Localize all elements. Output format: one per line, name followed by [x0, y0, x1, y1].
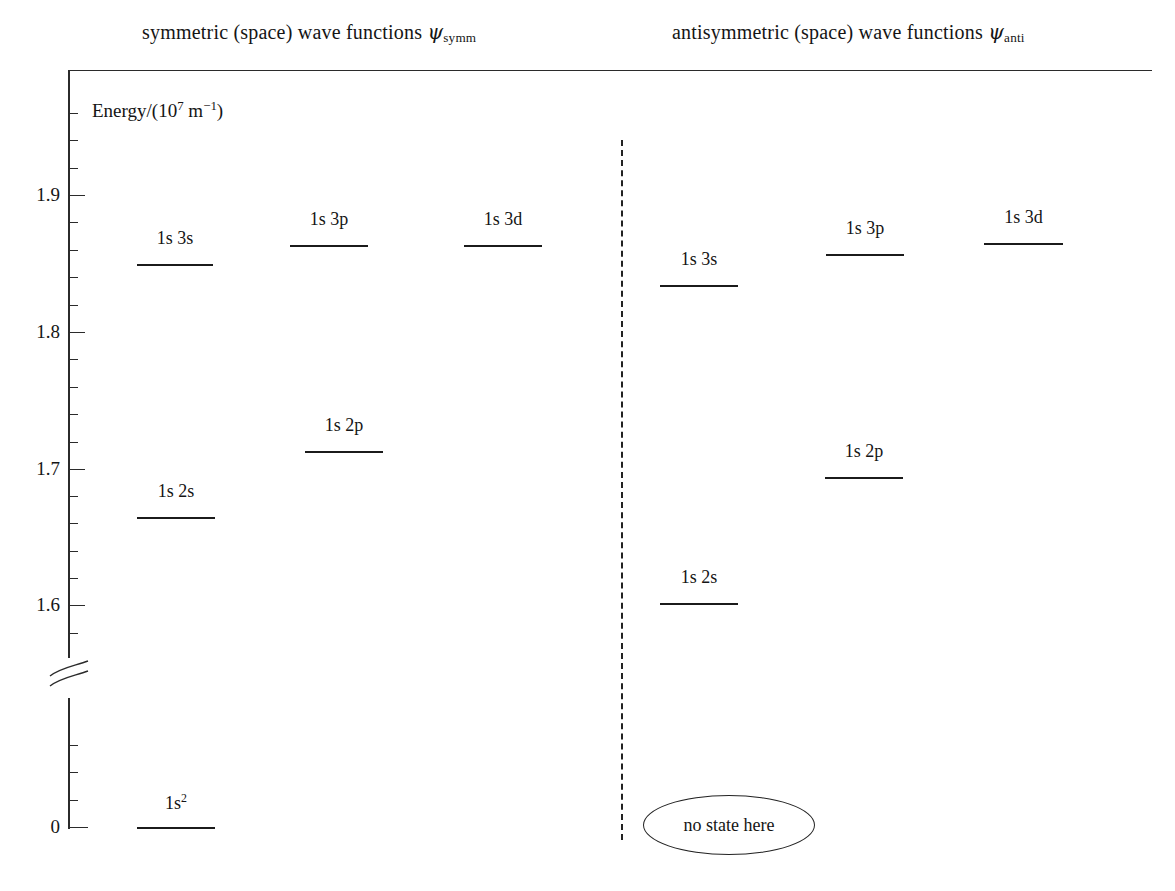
level-label-symm-1s2p: 1s 2p — [305, 415, 383, 436]
y-axis-label-tail: ) — [217, 100, 223, 121]
level-label-anti-1s3p: 1s 3p — [826, 218, 904, 239]
y-tick-major-0 — [69, 827, 85, 828]
level-line-symm-1s3s — [137, 264, 213, 266]
y-tick-minor — [69, 113, 78, 114]
y-axis-line — [68, 70, 70, 829]
y-tick-minor — [69, 140, 78, 141]
y-tick-minor — [69, 800, 78, 801]
y-tick-minor — [69, 496, 78, 497]
y-tick-major-1.9 — [69, 195, 85, 196]
level-label-symm-ground-sup: 2 — [181, 791, 187, 805]
y-tick-major-1.7 — [69, 469, 85, 470]
top-rule — [68, 70, 1152, 71]
level-line-symm-1s2s — [137, 517, 215, 519]
y-tick-major-1.8 — [69, 332, 85, 333]
level-line-symm-1s3p — [290, 245, 368, 247]
level-line-anti-1s3s — [660, 285, 738, 287]
axis-break-symbol — [48, 658, 96, 698]
y-axis-label-exponent-2: −1 — [203, 98, 217, 113]
y-tick-minor — [69, 442, 78, 443]
level-label-symm-1s3s: 1s 3s — [137, 228, 213, 249]
level-line-anti-1s2p — [825, 477, 903, 479]
y-tick-minor — [69, 222, 78, 223]
energy-level-diagram: symmetric (space) wave functions ψsymm a… — [0, 0, 1175, 891]
level-label-symm-1s3p: 1s 3p — [290, 209, 368, 230]
level-label-anti-1s3s: 1s 3s — [660, 249, 738, 270]
y-tick-minor — [69, 551, 78, 552]
level-label-symm-ground-base: 1s — [165, 793, 181, 813]
y-tick-minor — [69, 277, 78, 278]
y-tick-minor — [69, 745, 78, 746]
y-tick-label-0: 0 — [14, 816, 60, 838]
psi-symbol-symmetric: ψ — [427, 20, 443, 44]
y-tick-label-1.9: 1.9 — [14, 184, 60, 206]
level-line-anti-1s3p — [826, 254, 904, 256]
y-axis-label-mid: m — [184, 100, 204, 121]
y-tick-label-1.6: 1.6 — [14, 594, 60, 616]
no-state-label: no state here — [643, 795, 815, 855]
panel-title-symmetric-text: symmetric (space) wave functions — [142, 21, 427, 43]
y-tick-minor — [69, 168, 78, 169]
panel-title-antisymmetric: antisymmetric (space) wave functions ψan… — [672, 20, 1025, 46]
y-tick-major-1.6 — [69, 605, 85, 606]
y-tick-minor — [69, 414, 78, 415]
level-label-symm-1s3d: 1s 3d — [464, 209, 542, 230]
y-tick-minor — [69, 359, 78, 360]
panel-divider — [621, 140, 623, 840]
y-tick-minor — [69, 305, 78, 306]
y-tick-minor — [69, 578, 78, 579]
y-axis-label-lead: Energy/(10 — [92, 100, 177, 121]
level-line-anti-1s3d — [984, 243, 1063, 245]
psi-subscript-antisymmetric: anti — [1004, 30, 1025, 45]
level-label-symm-ground: 1s2 — [137, 791, 215, 814]
level-line-symm-1s2p — [305, 451, 383, 453]
level-label-anti-1s2s: 1s 2s — [660, 567, 738, 588]
panel-title-antisymmetric-text: antisymmetric (space) wave functions — [672, 21, 988, 43]
level-line-symm-1s3d — [464, 245, 542, 247]
y-tick-minor — [69, 633, 78, 634]
level-label-anti-1s3d: 1s 3d — [984, 207, 1063, 228]
y-tick-label-1.7: 1.7 — [14, 458, 60, 480]
level-line-symm-ground — [137, 827, 215, 829]
level-label-anti-1s2p: 1s 2p — [825, 441, 903, 462]
no-state-annotation: no state here — [643, 795, 815, 855]
y-tick-minor — [69, 387, 78, 388]
y-tick-label-1.8: 1.8 — [14, 321, 60, 343]
panel-title-symmetric: symmetric (space) wave functions ψsymm — [142, 20, 476, 46]
y-tick-minor — [69, 772, 78, 773]
y-tick-minor — [69, 250, 78, 251]
y-axis-label: Energy/(107 m−1) — [92, 98, 223, 122]
psi-symbol-antisymmetric: ψ — [988, 20, 1004, 44]
psi-subscript-symmetric: symm — [443, 30, 476, 45]
y-tick-minor — [69, 523, 78, 524]
level-line-anti-1s2s — [660, 603, 738, 605]
level-label-symm-1s2s: 1s 2s — [137, 481, 215, 502]
